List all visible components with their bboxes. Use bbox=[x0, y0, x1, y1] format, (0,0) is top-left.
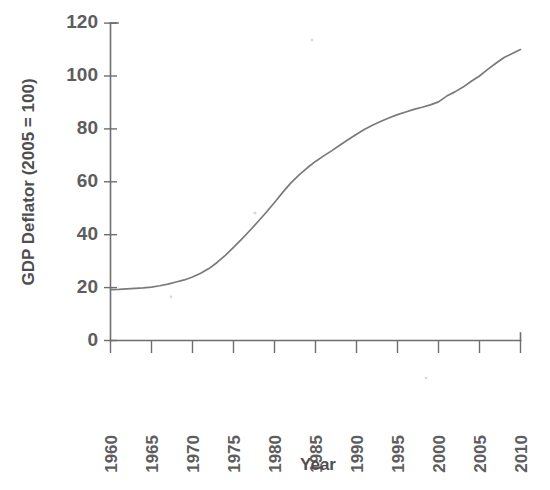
y-tick-label-100: 100 bbox=[66, 64, 98, 85]
x-axis-title: Year bbox=[300, 455, 336, 474]
y-axis-title: GDP Deflator (2005 = 100) bbox=[19, 78, 38, 285]
x-tick-label-1965: 1965 bbox=[143, 435, 162, 473]
scan-speck bbox=[170, 296, 173, 299]
scan-speck bbox=[311, 39, 314, 42]
y-tick-label-60: 60 bbox=[77, 170, 98, 191]
scan-speck bbox=[253, 211, 256, 214]
x-tick-label-2000: 2000 bbox=[430, 435, 449, 473]
data-series-gdp-deflator bbox=[111, 50, 521, 290]
x-tick-label-1975: 1975 bbox=[225, 435, 244, 473]
chart-figure: 0 20 40 60 80 100 120 1960 1965 1970 bbox=[0, 0, 550, 490]
y-tick-label-0: 0 bbox=[87, 329, 98, 350]
x-tick-label-2010: 2010 bbox=[512, 435, 531, 473]
x-tick-label-1990: 1990 bbox=[348, 435, 367, 473]
scan-speck bbox=[425, 377, 428, 380]
y-tick-label-20: 20 bbox=[77, 276, 98, 297]
y-tick-label-40: 40 bbox=[77, 223, 98, 244]
x-tick-label-1970: 1970 bbox=[184, 435, 203, 473]
x-tick-label-2005: 2005 bbox=[471, 435, 490, 473]
x-tick-label-1960: 1960 bbox=[102, 435, 121, 473]
x-tick-label-1980: 1980 bbox=[266, 435, 285, 473]
y-tick-label-80: 80 bbox=[77, 117, 98, 138]
y-tick-label-120: 120 bbox=[66, 11, 98, 32]
x-tick-label-1995: 1995 bbox=[389, 435, 408, 473]
x-tick-group bbox=[111, 341, 521, 354]
y-tick-labels: 0 20 40 60 80 100 120 bbox=[66, 11, 98, 349]
gdp-deflator-line-chart: 0 20 40 60 80 100 120 1960 1965 1970 bbox=[0, 0, 550, 490]
